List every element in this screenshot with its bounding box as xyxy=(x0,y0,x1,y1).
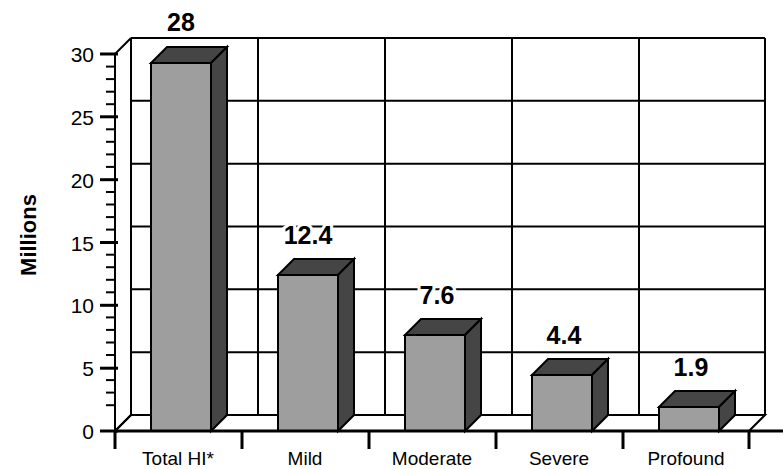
depth-edge-top xyxy=(115,38,131,54)
ytick-label-0: 0 xyxy=(82,420,94,443)
y-axis-tick-labels: 30 25 20 15 10 5 0 xyxy=(71,43,94,443)
category-label-mild: Mild xyxy=(288,448,323,469)
category-label-severe: Severe xyxy=(529,448,589,469)
y-axis-depth-edge xyxy=(115,38,131,431)
value-label-profound: 1.9 xyxy=(674,353,709,381)
ytick-label-10: 10 xyxy=(71,294,94,317)
bar-front-face xyxy=(532,375,592,431)
bar-moderate[interactable] xyxy=(405,319,481,431)
bar-side-face xyxy=(211,47,227,431)
category-label-profound: Profound xyxy=(647,448,724,469)
ytick-label-30: 30 xyxy=(71,43,94,66)
bar-front-face xyxy=(151,63,211,431)
bar-total-hi[interactable] xyxy=(151,47,227,431)
x-axis-ticks xyxy=(115,431,749,449)
value-label-mild: 12.4 xyxy=(284,221,333,249)
bar-front-face xyxy=(405,335,465,431)
x-axis-category-labels: Total HI* Mild Moderate Severe Profound xyxy=(142,448,724,469)
chart-figure: 30 25 20 15 10 5 0 Millions xyxy=(0,0,783,469)
y-axis-title-text: Millions xyxy=(16,194,41,276)
bar-severe[interactable] xyxy=(532,359,608,431)
bar-side-face xyxy=(338,259,354,431)
bar-side-face xyxy=(465,319,481,431)
ytick-label-5: 5 xyxy=(82,357,94,380)
y-axis-title: Millions xyxy=(16,194,41,276)
bar-mild[interactable] xyxy=(278,259,354,431)
value-label-severe: 4.4 xyxy=(547,321,582,349)
value-label-total-hi: 28 xyxy=(167,8,195,36)
ytick-label-25: 25 xyxy=(71,106,94,129)
bar-front-face xyxy=(659,407,719,431)
ytick-label-20: 20 xyxy=(71,169,94,192)
category-label-total-hi: Total HI* xyxy=(142,448,214,469)
bar-chart-3d: 30 25 20 15 10 5 0 Millions xyxy=(0,0,783,469)
value-label-moderate: 7.6 xyxy=(420,281,455,309)
ytick-label-15: 15 xyxy=(71,232,94,255)
bar-front-face xyxy=(278,275,338,431)
bar-profound[interactable] xyxy=(659,391,735,431)
category-label-moderate: Moderate xyxy=(392,448,472,469)
